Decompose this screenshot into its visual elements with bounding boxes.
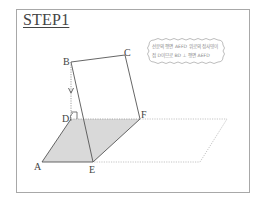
label-e: E (89, 164, 95, 175)
label-c: C (124, 47, 131, 58)
note-line-1: 선분의 평면 AEFD 위로의 정사영이 (152, 43, 218, 50)
right-angle-mark (71, 112, 77, 119)
note-line-2: 점 D이므로 BD ⊥ 평면 AEFD (152, 52, 210, 59)
geometry-diagram: A B C D E F 선분의 평면 AEFD 위로의 정사영이 점 D이므로 … (0, 0, 263, 204)
label-b: B (63, 56, 70, 67)
edge-cf (125, 55, 140, 119)
label-f: F (141, 109, 147, 120)
label-d: D (62, 113, 69, 124)
edge-bc (71, 55, 125, 62)
cloud-callout (148, 39, 225, 64)
label-a: A (34, 161, 42, 172)
